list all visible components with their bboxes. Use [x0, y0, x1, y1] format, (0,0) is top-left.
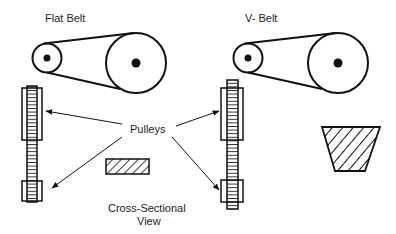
v-belt-drive	[234, 33, 369, 93]
v-belt-title: V- Belt	[245, 12, 277, 24]
pulleys-label: Pulleys	[130, 123, 166, 135]
flat-belt-drive	[33, 33, 167, 93]
cross-section-label-line2: View	[137, 215, 161, 227]
belt-drive-diagram: Flat Belt V- Belt Pulleys	[0, 0, 396, 234]
flat-belt-title: Flat Belt	[45, 12, 85, 24]
v-belt-side-view	[221, 80, 243, 209]
flat-belt-cross-section	[106, 159, 149, 174]
flat-belt-side-view	[22, 86, 42, 202]
cross-section-label-line1: Cross-Sectional	[108, 202, 186, 214]
v-belt-cross-section	[322, 127, 380, 171]
